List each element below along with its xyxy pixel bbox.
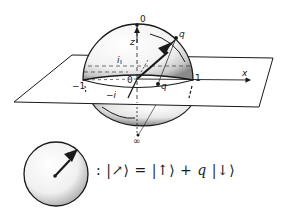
small-spin-sphere (24, 142, 88, 206)
equation-equals: = (135, 162, 147, 178)
riemann-sphere-diagram: 0 z x 0 1 −1 i −i q q ∞ (0, 0, 285, 215)
minus-i-label: −i (106, 90, 117, 100)
equation-coefficient-q: q (197, 162, 206, 178)
equation-plus: + (180, 162, 192, 178)
upper-hemisphere (83, 24, 193, 80)
plane-point-q-label: q (161, 81, 167, 91)
equation-colon: : (96, 162, 101, 178)
origin-label: 0 (127, 75, 133, 85)
spin-state-equation: : |↗⟩ = |↑⟩ + q |↓⟩ (96, 162, 235, 178)
minus-one-label: −1 (72, 81, 85, 91)
south-pole-label: ∞ (133, 136, 141, 146)
z-axis-label: z (129, 37, 135, 47)
equation-up-ket: |↑⟩ (152, 162, 175, 178)
lower-hemisphere (92, 103, 193, 137)
plus-one-label: 1 (195, 73, 201, 83)
north-pole-label: 0 (140, 14, 146, 24)
x-axis-label: x (241, 68, 248, 78)
equation-down-ket: |↓⟩ (212, 162, 235, 178)
sphere-point-q-label: q (179, 29, 185, 39)
equation-lhs-ket: |↗⟩ (106, 162, 129, 178)
